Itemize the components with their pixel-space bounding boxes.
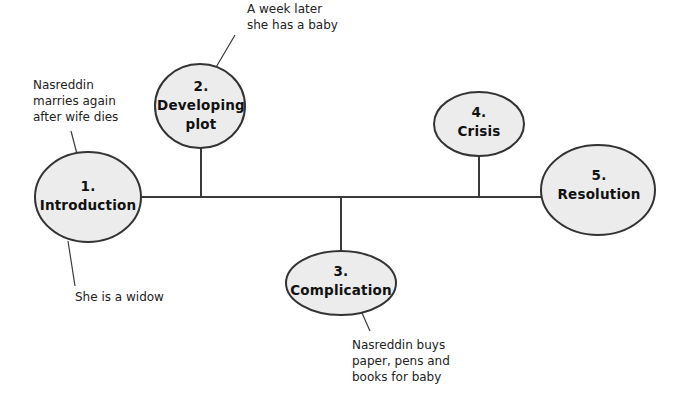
node-title: Complication [290,281,392,300]
callout-line-text: She is a widow [75,289,164,305]
callout-intro-above: Nasreddin marries again after wife dies [33,77,118,125]
node-title: plot [157,115,245,134]
node-number: 5. [557,166,640,185]
callout-line-intro-above [71,131,77,154]
callout-line-intro-below [68,241,75,286]
callout-complication-below: Nasreddin buys paper, pens and books for… [352,337,450,385]
node-number: 1. [40,177,137,196]
story-structure-diagram: 1. Introduction 2. Developing plot 3. Co… [0,0,675,417]
callout-line-text: A week later [247,1,338,17]
node-number: 2. [157,77,245,96]
callout-line-text: paper, pens and [352,353,450,369]
callout-line-text: after wife dies [33,109,118,125]
callout-line-text: Nasreddin buys [352,337,450,353]
callout-line-text: Nasreddin [33,77,118,93]
node-crisis: 4. Crisis [457,103,500,141]
node-number: 3. [290,262,392,281]
callout-line-text: books for baby [352,369,450,385]
node-resolution: 5. Resolution [557,166,640,204]
callout-line-text: marries again [33,93,118,109]
node-complication: 3. Complication [290,262,392,300]
node-number: 4. [457,103,500,122]
callout-line-developing-plot-above [215,35,235,69]
callout-developing-plot-above: A week later she has a baby [247,1,338,33]
node-introduction: 1. Introduction [40,177,137,215]
node-title: Crisis [457,122,500,141]
callout-intro-below: She is a widow [75,289,164,305]
node-title: Introduction [40,196,137,215]
node-developing-plot: 2. Developing plot [157,77,245,134]
node-title: Resolution [557,185,640,204]
callout-line-complication-below [362,313,370,331]
node-title: Developing [157,96,245,115]
callout-line-text: she has a baby [247,17,338,33]
